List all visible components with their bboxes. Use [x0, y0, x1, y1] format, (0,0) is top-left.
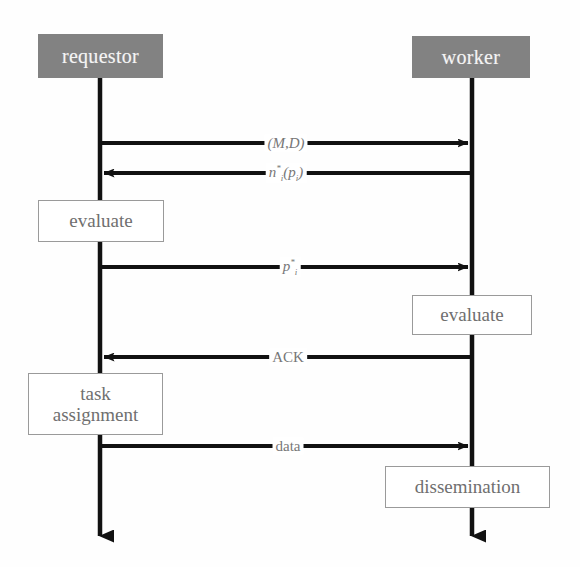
message-label-subscript: i: [295, 267, 298, 277]
action-box-evaluate-worker[interactable]: evaluate: [412, 295, 532, 335]
action-box-task-assignment[interactable]: task assignment: [28, 373, 163, 435]
message-label-tail: (p: [283, 164, 296, 180]
sequence-diagram: requestor worker evaluate evaluate task …: [0, 0, 580, 567]
actor-header-worker[interactable]: worker: [412, 36, 530, 78]
actor-label-requestor: requestor: [62, 45, 139, 68]
message-label-m2: n*i(pi): [266, 163, 307, 183]
message-label-superscript: *: [290, 257, 295, 267]
action-box-label: evaluate: [440, 305, 503, 325]
message-label-m1: (M,D): [264, 135, 307, 152]
action-box-label-line1: task: [80, 383, 111, 404]
action-box-label: dissemination: [415, 477, 521, 497]
actor-label-worker: worker: [442, 46, 500, 69]
message-label-superscript: *: [276, 163, 281, 173]
message-label-text: ACK: [272, 349, 304, 365]
message-label-m5: data: [273, 438, 304, 455]
message-label-text: (M,D): [267, 135, 304, 151]
action-box-label: evaluate: [69, 211, 132, 231]
message-label-text: data: [276, 438, 301, 454]
action-box-evaluate-requestor[interactable]: evaluate: [38, 200, 164, 242]
message-label-m4: ACK: [269, 349, 307, 366]
action-box-dissemination[interactable]: dissemination: [385, 466, 550, 508]
message-label-text: n: [269, 164, 277, 180]
message-label-m3: p*i: [280, 257, 301, 277]
actor-header-requestor[interactable]: requestor: [38, 34, 163, 78]
message-label-tail-end: ): [298, 164, 303, 180]
action-box-label-line2: assignment: [53, 404, 139, 425]
message-label-text: p: [283, 258, 291, 274]
